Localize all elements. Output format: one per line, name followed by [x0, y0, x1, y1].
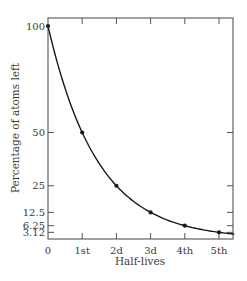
data-point	[149, 210, 153, 214]
x-tick-label: 4th	[176, 245, 193, 256]
data-point	[217, 230, 221, 234]
y-tick-label: 12.5	[23, 207, 45, 218]
x-axis-label: Half-lives	[115, 255, 165, 267]
decay-curve	[48, 26, 234, 234]
data-points	[46, 24, 221, 235]
y-tick-label: 3.12	[23, 227, 45, 238]
y-tick-label: 100	[26, 21, 45, 32]
y-tick-labels: 100502512.56.253.12	[23, 21, 45, 238]
y-tick-label: 25	[32, 180, 45, 191]
x-tick-label: 0	[45, 245, 51, 256]
data-point	[183, 224, 187, 228]
x-tick-label: 1st	[74, 245, 90, 256]
data-point	[114, 184, 118, 188]
y-axis-label: Percentage of atoms left	[9, 62, 21, 193]
x-tick-label: 5th	[211, 245, 228, 256]
half-life-decay-chart: 100502512.56.253.12 01st2d3d4th5th Half-…	[0, 0, 247, 281]
data-point	[46, 24, 50, 28]
data-point	[80, 130, 84, 134]
y-tick-label: 50	[32, 127, 45, 138]
